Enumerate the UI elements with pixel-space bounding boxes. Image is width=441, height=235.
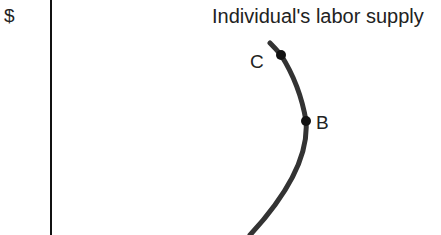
point-c-label: C bbox=[250, 52, 264, 71]
point-c-marker bbox=[276, 50, 286, 60]
diagram-canvas bbox=[0, 0, 441, 235]
point-b-marker bbox=[301, 116, 311, 126]
y-axis-label: $ bbox=[4, 6, 15, 25]
point-b-label: B bbox=[316, 113, 329, 132]
curve-label: Individual's labor supply bbox=[212, 6, 424, 26]
